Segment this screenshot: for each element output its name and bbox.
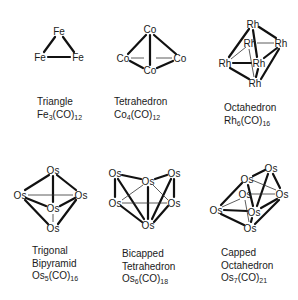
formula: Os6(CO)18 [122,273,175,286]
caption-capped-octahedron: Capped Octahedron Os7(CO)21 [221,247,273,285]
atom-os-top: Os [241,174,254,185]
shape-name: Octahedron [224,102,276,115]
atom-fe-top: Fe [53,26,65,37]
atom-os-right: Os [276,189,289,200]
caption-triangle: Triangle Fe3(CO)12 [37,96,82,121]
formula: Co4(CO)12 [114,109,167,122]
triangle-fe3-structure: Fe Fe Fe [34,26,84,63]
atom-os-mid-right: Os [168,198,181,209]
atom-os-cap: Os [265,163,278,174]
atom-rh-left: Rh [219,58,232,69]
shape-name-line2: Bipyramid [32,258,78,271]
atom-co-left: Co [117,53,130,64]
caption-bicapped-tetrahedron: Bicapped Tetrahedron Os6(CO)18 [122,248,175,286]
atom-os-back: Os [239,189,252,200]
atom-os-apex-bottom: Os [47,223,60,234]
caption-trigonal-bipyramid: Trigonal Bipyramid Os5(CO)16 [32,245,78,283]
atom-fe-right: Fe [72,52,84,63]
formula: Os7(CO)21 [221,272,273,285]
atom-rh-top: Rh [247,19,260,30]
atom-os-top-left: Os [109,168,122,179]
octahedron-rh6-structure: Rh Rh Rh Rh Rh Rh [219,19,288,89]
atom-os-front: Os [47,203,60,214]
atom-os-bottom: Os [244,223,257,234]
atom-os-top-right: Os [168,168,181,179]
shape-name-line1: Bicapped [122,248,175,261]
formula: Rh6(CO)16 [224,115,276,128]
atom-fe-left: Fe [34,52,46,63]
tetrahedron-co4-structure: Co Co Co Co [117,24,187,76]
shape-name: Tetrahedron [114,96,167,109]
formula: Os5(CO)16 [32,270,78,283]
shape-name: Triangle [37,96,82,109]
bicapped-tetrahedron-os6-structure: Os Os Os Os Os Os [109,168,181,231]
atom-rh-front: Rh [253,58,266,69]
caption-tetrahedron: Tetrahedron Co4(CO)12 [114,96,167,121]
atom-os-bottom: Os [142,220,155,231]
atom-co-bottom: Co [144,65,157,76]
shape-name-line2: Tetrahedron [122,261,175,274]
atom-co-top: Co [144,24,157,35]
atom-rh-bottom: Rh [249,78,262,89]
atom-rh-right: Rh [275,38,288,49]
atom-co-right: Co [174,53,187,64]
atom-os-apex-top: Os [47,165,60,176]
atom-os-left: Os [210,205,223,216]
caption-octahedron: Octahedron Rh6(CO)16 [224,102,276,127]
atom-os-left: Os [14,190,27,201]
atom-os-right: Os [75,190,88,201]
atom-rh-back: Rh [244,38,257,49]
trigonal-bipyramid-os5-structure: Os Os Os Os Os [14,165,88,234]
capped-octahedron-os7-structure: Os Os Os Os Os Os Os [210,163,289,234]
shape-name-line2: Octahedron [221,260,273,273]
shape-name-line1: Capped [221,247,273,260]
formula: Fe3(CO)12 [37,109,82,122]
shape-name-line1: Trigonal [32,245,78,258]
atom-os-mid-left: Os [109,198,122,209]
atom-os-front: Os [248,207,261,218]
atom-os-top-center: Os [142,176,155,187]
